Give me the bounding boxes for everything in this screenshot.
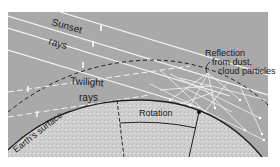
label-twilight-rays: rays [79, 92, 98, 103]
label-reflection-3: cloud particles [218, 66, 276, 76]
observer-point [197, 110, 201, 114]
label-twilight: Twilight [70, 75, 104, 88]
label-rotation: Rotation [139, 108, 173, 118]
twilight-diagram: Sunset rays Twilight rays Reflection fro… [0, 0, 280, 167]
